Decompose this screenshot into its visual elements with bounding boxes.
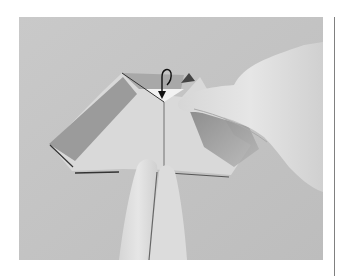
- paper-bottom-edge-left: [75, 172, 119, 173]
- origami-photo: [19, 17, 323, 260]
- page-margin-rule: [334, 17, 335, 276]
